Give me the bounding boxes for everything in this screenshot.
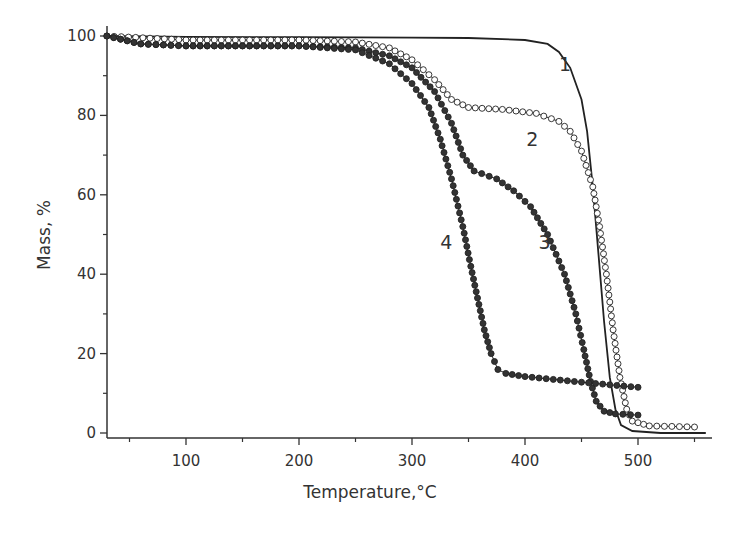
data-marker — [592, 197, 598, 203]
data-marker — [303, 43, 309, 49]
data-marker — [455, 203, 461, 209]
data-marker — [460, 224, 466, 230]
data-marker — [324, 38, 330, 44]
data-marker — [620, 411, 626, 417]
data-marker — [573, 311, 579, 317]
data-marker — [380, 58, 386, 64]
data-marker — [460, 102, 466, 108]
data-marker — [183, 43, 189, 49]
data-marker — [422, 99, 428, 105]
data-marker — [268, 37, 274, 43]
data-marker — [543, 376, 549, 382]
data-marker — [528, 204, 534, 210]
data-marker — [386, 61, 392, 67]
data-marker — [373, 43, 379, 49]
data-marker — [571, 304, 577, 310]
data-marker — [538, 220, 544, 226]
data-marker — [453, 133, 459, 139]
data-marker — [366, 41, 372, 47]
data-marker — [569, 298, 575, 304]
data-marker — [154, 36, 160, 42]
data-marker — [615, 361, 621, 367]
data-marker — [445, 114, 451, 120]
data-marker — [593, 381, 599, 387]
series-line — [107, 36, 706, 433]
data-marker — [494, 176, 500, 182]
data-marker — [533, 110, 539, 116]
data-marker — [403, 76, 409, 82]
data-marker — [449, 97, 455, 103]
data-marker — [204, 43, 210, 49]
data-marker — [499, 106, 505, 112]
data-marker — [409, 65, 415, 71]
y-tick-label: 20 — [77, 345, 96, 363]
data-marker — [427, 84, 433, 90]
y-axis-title: Mass, % — [34, 200, 54, 270]
data-marker — [621, 383, 627, 389]
data-marker — [595, 217, 601, 223]
data-marker — [147, 35, 153, 41]
series-line — [107, 36, 638, 415]
data-marker — [140, 35, 146, 41]
data-marker — [607, 299, 613, 305]
data-marker — [467, 163, 473, 169]
data-marker — [418, 74, 424, 80]
x-tick-label: 500 — [624, 452, 653, 470]
data-marker — [606, 292, 612, 298]
data-marker — [373, 55, 379, 61]
data-marker — [423, 79, 429, 85]
data-marker — [445, 163, 451, 169]
data-marker — [345, 46, 351, 52]
data-marker — [331, 38, 337, 44]
data-marker — [607, 382, 613, 388]
data-marker — [398, 71, 404, 77]
x-tick-label: 300 — [398, 452, 427, 470]
data-marker — [438, 101, 444, 107]
curve-label-2: 2 — [526, 128, 538, 150]
data-marker — [461, 230, 467, 236]
data-marker — [529, 374, 535, 380]
data-marker — [138, 41, 144, 47]
data-marker — [611, 334, 617, 340]
data-marker — [275, 37, 281, 43]
data-marker — [584, 359, 590, 365]
data-marker — [204, 37, 210, 43]
data-marker — [435, 130, 441, 136]
series-line — [107, 36, 695, 427]
data-marker — [477, 308, 483, 314]
data-marker — [602, 264, 608, 270]
data-marker — [564, 378, 570, 384]
data-marker — [612, 340, 618, 346]
data-marker — [211, 37, 217, 43]
data-marker — [493, 106, 499, 112]
data-marker — [197, 43, 203, 49]
data-marker — [432, 89, 438, 95]
data-marker — [471, 168, 477, 174]
data-marker — [449, 176, 455, 182]
data-marker — [268, 43, 274, 49]
x-tick-label: 200 — [285, 452, 314, 470]
data-marker — [635, 420, 641, 426]
data-marker — [574, 318, 580, 324]
data-marker — [576, 325, 582, 331]
data-marker — [608, 313, 614, 319]
data-marker — [225, 43, 231, 49]
data-marker — [506, 107, 512, 113]
data-marker — [654, 423, 660, 429]
data-marker — [603, 271, 609, 277]
y-tick-label: 80 — [77, 106, 96, 124]
data-marker — [420, 67, 426, 73]
data-marker — [282, 37, 288, 43]
data-marker — [451, 127, 457, 133]
x-tick-label: 100 — [172, 452, 201, 470]
data-marker — [455, 139, 461, 145]
data-marker — [563, 278, 569, 284]
data-marker — [617, 374, 623, 380]
data-marker — [380, 44, 386, 50]
data-marker — [111, 35, 117, 41]
data-marker — [605, 285, 611, 291]
data-marker — [414, 70, 420, 76]
data-marker — [522, 374, 528, 380]
data-marker — [559, 265, 565, 271]
data-marker — [275, 43, 281, 49]
